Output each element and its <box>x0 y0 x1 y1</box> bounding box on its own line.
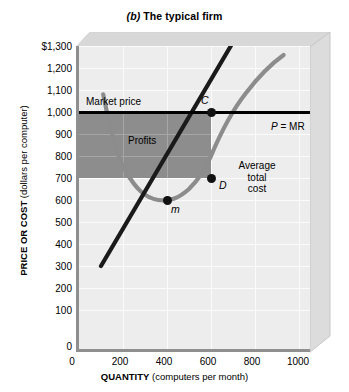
atc-label-line-3: cost <box>231 183 283 195</box>
y-tick-600: 600 <box>26 195 72 206</box>
y-tick-700: 700 <box>26 173 72 184</box>
market-price-label: Market price <box>86 96 141 108</box>
plot-inner: C D m Market price Profits Average total… <box>79 46 310 349</box>
y-tick-1100: 1,100 <box>26 85 72 96</box>
point-d-label: D <box>219 179 227 191</box>
x-axis-ticks: 0 200 400 600 800 1000 <box>0 356 349 370</box>
x-tick-1000: 1000 <box>273 356 323 367</box>
y-tick-400: 400 <box>26 239 72 250</box>
y-axis-title-unit: (dollars per computer) <box>18 105 29 201</box>
chart-figure: (b) The typical firm $1,300 1,200 1,100 … <box>0 0 349 392</box>
box-right-bevel-shape <box>310 32 332 354</box>
y-tick-100: 100 <box>26 305 72 316</box>
y-tick-1300: $1,300 <box>26 41 72 52</box>
average-total-cost-label: Average total cost <box>231 160 283 195</box>
price-equals-mr-label: P = MR <box>271 121 305 133</box>
y-tick-300: 300 <box>26 261 72 272</box>
x-tick-600: 600 <box>183 356 233 367</box>
y-tick-800: 800 <box>26 151 72 162</box>
plot-area: C D m Market price Profits Average total… <box>76 46 310 352</box>
x-tick-800: 800 <box>227 356 277 367</box>
chart-title-text: The typical firm <box>140 10 222 22</box>
point-c-marker <box>207 108 216 117</box>
box-right-bevel <box>310 32 330 352</box>
equals-mr-text: = MR <box>278 121 305 132</box>
curves-layer <box>79 46 310 349</box>
chart-title-prefix: (b) <box>127 10 141 22</box>
y-tick-0: 0 <box>26 341 72 352</box>
y-axis-ticks: $1,300 1,200 1,100 1,000 900 800 700 600… <box>22 0 72 392</box>
y-axis-title: PRICE OR COST (dollars per computer) <box>18 76 29 306</box>
x-tick-200: 200 <box>95 356 145 367</box>
box-top-bevel <box>76 32 330 47</box>
point-d-marker <box>207 174 216 183</box>
atc-label-line-1: Average <box>231 160 283 172</box>
y-axis-title-bold: PRICE OR COST <box>18 201 29 276</box>
y-tick-1200: 1,200 <box>26 63 72 74</box>
y-tick-1000: 1,000 <box>26 107 72 118</box>
y-tick-200: 200 <box>26 283 72 294</box>
atc-label-line-2: total <box>231 172 283 184</box>
x-axis-title-bold: QUANTITY <box>101 371 150 382</box>
y-tick-900: 900 <box>26 129 72 140</box>
x-axis-title-unit: (computers per month) <box>149 371 248 382</box>
y-tick-500: 500 <box>26 217 72 228</box>
profits-label: Profits <box>128 135 156 147</box>
plot-3d-box: C D m Market price Profits Average total… <box>76 32 330 352</box>
point-m-label: m <box>171 203 180 215</box>
price-marginal-revenue-line <box>79 111 310 115</box>
x-tick-400: 400 <box>139 356 189 367</box>
x-axis-title: QUANTITY (computers per month) <box>0 371 349 382</box>
x-tick-0: 0 <box>47 356 97 367</box>
price-symbol: P <box>271 121 278 132</box>
point-c-label: C <box>201 94 209 106</box>
